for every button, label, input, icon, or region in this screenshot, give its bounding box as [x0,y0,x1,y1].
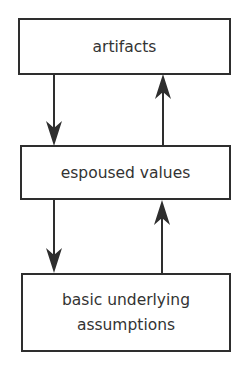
espoused-values-box: espoused values [20,145,231,200]
basic-underlying-assumptions-label: basic underlying assumptions [62,288,190,338]
artifacts-box: artifacts [18,18,231,75]
espoused-values-label: espoused values [61,162,191,184]
label-line-1: basic underlying [62,288,190,313]
label-line-2: assumptions [62,313,190,338]
arrow-up-assumptions-to-values [154,200,170,273]
basic-underlying-assumptions-box: basic underlying assumptions [21,273,231,352]
arrow-down-values-to-assumptions [46,200,62,273]
arrow-down-artifacts-to-values [46,75,62,146]
artifacts-label: artifacts [93,36,157,58]
arrow-up-values-to-artifacts [155,74,171,145]
